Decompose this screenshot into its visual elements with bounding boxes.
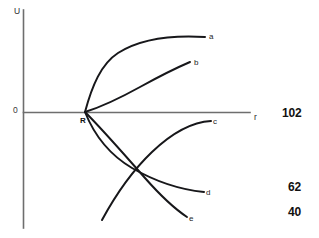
junction-point-label: R bbox=[80, 117, 86, 125]
origin-label: 0 bbox=[13, 106, 18, 115]
curve-label-a: a bbox=[209, 33, 213, 41]
curve-b bbox=[85, 62, 190, 112]
y-axis-label: U bbox=[14, 7, 20, 16]
plot-canvas bbox=[0, 0, 319, 238]
curve-label-e: e bbox=[189, 215, 193, 223]
curve-c bbox=[102, 121, 211, 220]
x-axis-label: r bbox=[254, 113, 257, 122]
curve-label-b: b bbox=[194, 59, 198, 67]
side-value-3: 40 bbox=[288, 206, 301, 218]
curve-label-c: c bbox=[213, 118, 217, 126]
curve-a bbox=[85, 37, 205, 112]
curve-label-d: d bbox=[206, 189, 210, 197]
potential-curves-figure: U r 0 R a b c d e 102 62 40 bbox=[0, 0, 319, 238]
side-value-1: 102 bbox=[282, 107, 301, 119]
curve-d bbox=[85, 112, 204, 192]
curve-e bbox=[85, 112, 187, 217]
side-value-2: 62 bbox=[288, 181, 301, 193]
